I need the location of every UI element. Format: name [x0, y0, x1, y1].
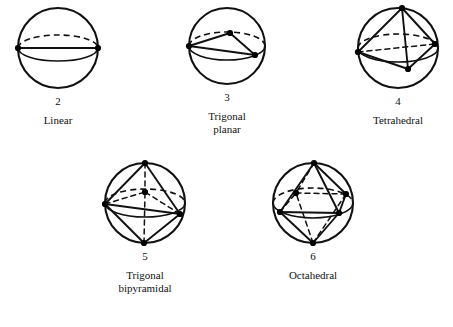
bond-edge-apex-to-front: [402, 8, 408, 69]
vertex-bottom: [310, 240, 316, 246]
sphere-diagram-linear: [12, 2, 104, 94]
domain-count-label-trigonal-bipyramidal: 5: [142, 250, 148, 262]
bond-edge-front-left-to-front-right: [280, 212, 339, 213]
sphere-outline: [189, 8, 265, 84]
geometry-figure-octahedral: 6Octahedral: [267, 157, 359, 282]
vertex-back-right: [343, 191, 349, 197]
figure-canvas: 2Linear3Trigonal planar4Tetrahedral5Trig…: [0, 0, 453, 327]
vertex-bottom: [141, 240, 147, 246]
vertex-front-right: [252, 52, 258, 58]
bond-edge-left-to-back: [189, 33, 230, 46]
bond-edge-left-to-right: [358, 44, 435, 52]
geometry-figure-trigonal-bipyramidal: 5Trigonal bipyramidal: [99, 157, 191, 294]
domain-count-label-octahedral: 6: [310, 250, 316, 262]
geometry-figure-trigonal-planar: 3Trigonal planar: [183, 2, 271, 135]
sphere-diagram-trigonal-bipyramidal: [99, 157, 191, 249]
bond-edge-apex-to-left: [358, 8, 402, 52]
domain-count-label-trigonal-planar: 3: [224, 91, 230, 103]
sphere-diagram-octahedral: [267, 157, 359, 249]
vertex-front: [405, 66, 411, 72]
vertex-back-left: [293, 190, 299, 196]
vertex-top: [142, 160, 148, 166]
sphere-diagram-tetrahedral: [352, 2, 444, 94]
vertex-left: [186, 43, 192, 49]
vertex-left: [355, 49, 361, 55]
geometry-name-label-tetrahedral: Tetrahedral: [373, 114, 423, 127]
geometry-name-label-trigonal-planar: Trigonal planar: [208, 110, 246, 135]
vertex-left: [15, 45, 21, 51]
bond-edge-front-left-to-back-left: [280, 193, 296, 212]
equator-back-arc: [18, 35, 98, 48]
vertex-right: [177, 211, 183, 217]
vertex-front-right: [336, 210, 342, 216]
domain-count-label-tetrahedral: 4: [395, 95, 401, 107]
vertex-left: [102, 201, 108, 207]
geometry-figure-linear: 2Linear: [12, 2, 104, 127]
vertex-back: [227, 30, 233, 36]
geometry-figure-tetrahedral: 4Tetrahedral: [352, 2, 444, 127]
domain-count-label-linear: 2: [55, 95, 61, 107]
geometry-name-label-octahedral: Octahedral: [289, 269, 337, 282]
vertex-back: [142, 189, 148, 195]
vertex-front-left: [277, 209, 283, 215]
vertex-apex: [399, 5, 405, 11]
geometry-name-label-trigonal-bipyramidal: Trigonal bipyramidal: [118, 269, 171, 294]
bond-edge-left-to-front: [358, 52, 408, 69]
equator-front-arc: [18, 48, 98, 61]
vertex-right: [95, 45, 101, 51]
geometry-name-label-linear: Linear: [44, 114, 73, 127]
bond-edge-back-left-to-back-right: [296, 193, 346, 194]
vertex-top: [311, 160, 317, 166]
sphere-outline: [273, 163, 353, 243]
sphere-diagram-trigonal-planar: [183, 2, 271, 90]
vertex-right: [432, 41, 438, 47]
